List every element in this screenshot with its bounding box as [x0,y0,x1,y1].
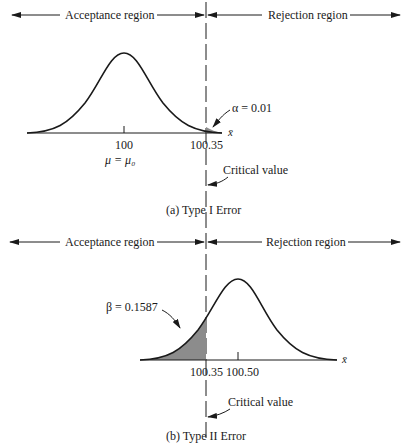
critical-value-pointer-b [208,409,230,417]
x-axis-label-a: x̄ [228,127,233,138]
null-distribution-curve [27,53,222,133]
caption-b: (b) Type II Error [166,430,246,442]
alpha-label: α = 0.01 [232,102,272,114]
mean-tick-label-a: 100 [115,139,133,151]
acceptance-region-label-b: Acceptance region [63,236,157,248]
acceptance-region-label-a: Acceptance region [63,9,157,21]
beta-shaded-area [140,318,206,360]
critical-tick-label-a: 100.35 [190,139,223,151]
critical-tick-label-b: 100.35 [190,366,223,378]
mean-tick-label-b: 100.50 [226,366,259,378]
panel-b [10,242,400,417]
critical-value-pointer-a [208,177,228,185]
critical-value-label-b: Critical value [228,396,293,408]
alpha-pointer-arrow [213,110,230,127]
caption-a: (a) Type I Error [166,204,241,216]
alternative-distribution-curve [140,279,337,360]
beta-pointer-arrow [162,310,180,328]
rejection-region-label-b: Rejection region [264,236,348,248]
diagram-canvas [0,0,407,448]
beta-label: β = 0.1587 [106,301,158,313]
mean-symbol-label: μ = μ₀ [105,154,135,166]
x-axis-label-b: x̄ [342,354,347,365]
rejection-region-label-a: Rejection region [266,9,350,21]
critical-value-label-a: Critical value [223,164,288,176]
